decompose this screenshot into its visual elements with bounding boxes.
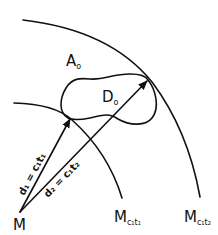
distance-diagram: Ao Do M Mc₁t₁ Mc₁t₂ d₁ = c₁t₁ d₂ = c₁t₂: [0, 0, 218, 235]
inner-arc-label: Mc₁t₁: [114, 208, 141, 227]
outer-arc-label: Mc₁t₂: [184, 208, 211, 227]
area-label: Ao: [66, 52, 81, 71]
region-label: Do: [102, 88, 119, 107]
point-m-label: M: [13, 216, 26, 234]
arrow-d2-label: d₂ = c₁t₂: [42, 158, 82, 199]
arrow-d2: [20, 81, 147, 212]
arrow-d1: [20, 119, 70, 212]
